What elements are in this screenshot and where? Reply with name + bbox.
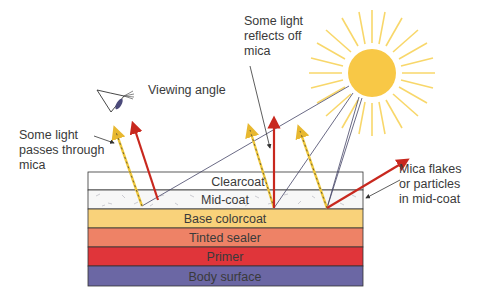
- layer-body-surface-label: Body surface: [189, 270, 262, 284]
- layer-midcoat-label: Mid-coat: [201, 193, 249, 207]
- viewing-angle-label: Viewing angle: [148, 83, 226, 98]
- passes-through-label: Some light passes through mica: [19, 128, 104, 173]
- eye-icon: [97, 90, 134, 112]
- layer-stack: Clearcoat Mid-coat Base colorcoat Tinted…: [88, 172, 363, 286]
- sun-icon: [309, 10, 435, 136]
- layer-primer-label: Primer: [207, 250, 244, 264]
- layer-base-colorcoat-label: Base colorcoat: [184, 212, 267, 226]
- mica-flakes-label: Mica flakes or particles in mid-coat: [399, 162, 462, 207]
- layer-clearcoat-label: Clearcoat: [211, 175, 265, 189]
- reflects-off-label: Some light reflects off mica: [244, 14, 303, 59]
- layer-tinted-sealer-label: Tinted sealer: [189, 231, 261, 245]
